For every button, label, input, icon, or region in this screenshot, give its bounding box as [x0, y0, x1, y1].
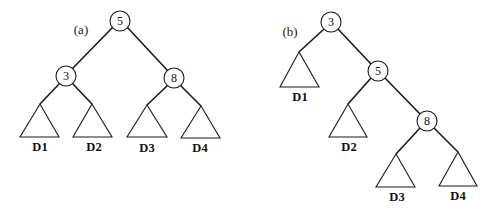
edge-3-5 — [338, 29, 371, 64]
node-8: 8 — [417, 111, 437, 131]
subtree-D4 — [439, 152, 477, 186]
node-label: 5 — [375, 64, 381, 78]
subtree-label-D2: D2 — [86, 140, 101, 154]
edge-5-D2 — [348, 78, 371, 104]
edge-3-D2 — [72, 83, 92, 104]
subtree-label-D2: D2 — [341, 140, 356, 154]
edge-8-D3 — [396, 128, 420, 154]
subtree-label-D3: D3 — [389, 190, 404, 204]
subtree-D1 — [280, 52, 319, 87]
node-label: 8 — [171, 71, 177, 85]
node-label: 3 — [63, 69, 69, 83]
node-label: 5 — [117, 14, 123, 28]
node-5: 5 — [110, 11, 130, 31]
panel-label-b: (b) — [282, 24, 297, 39]
edge-8-D4 — [434, 128, 458, 152]
subtree-label-D4: D4 — [192, 141, 208, 155]
subtree-D1 — [20, 104, 59, 137]
panel-a: (a) D1 D2 D3 D4 5 3 8 — [20, 11, 220, 155]
subtree-D3 — [376, 154, 415, 187]
subtree-D2 — [329, 104, 367, 137]
node-3: 3 — [321, 12, 341, 32]
edge-3-D1 — [299, 29, 324, 52]
node-3: 3 — [56, 66, 76, 86]
panel-b: (b) D1 D2 D3 D4 3 5 8 — [280, 12, 477, 204]
subtree-D4 — [181, 106, 220, 138]
edge-5-8 — [385, 78, 420, 114]
tree-diagram: (a) D1 D2 D3 D4 5 3 8 (b) — [0, 0, 494, 208]
node-label: 3 — [328, 15, 334, 29]
subtree-D3 — [127, 105, 167, 137]
subtree-label-D4: D4 — [450, 189, 466, 203]
subtree-D2 — [73, 104, 112, 137]
edge-3-D1 — [40, 83, 60, 104]
node-5: 5 — [368, 61, 388, 81]
node-label: 8 — [424, 114, 430, 128]
edge-8-D4 — [180, 85, 201, 106]
subtree-label-D1: D1 — [32, 140, 47, 154]
subtree-label-D3: D3 — [139, 141, 154, 155]
panel-label-a: (a) — [74, 22, 88, 37]
edge-8-D3 — [147, 85, 168, 105]
subtree-label-D1: D1 — [292, 90, 307, 104]
node-8: 8 — [164, 68, 184, 88]
edge-5-8 — [127, 27, 168, 71]
